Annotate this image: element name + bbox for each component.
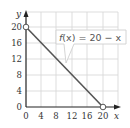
grid	[26, 12, 118, 107]
y-tick-8: 8	[17, 70, 22, 80]
y-tick-12: 12	[11, 54, 22, 64]
y-tick-16: 16	[11, 38, 22, 48]
callout-label: f(x) = 20 − x	[59, 32, 121, 43]
y-tick-4: 4	[17, 86, 22, 96]
x-tick-4: 4	[38, 111, 43, 121]
x-tick-8: 8	[53, 111, 58, 121]
y-tick-20: 20	[11, 22, 22, 32]
function-callout: f(x) = 20 − x	[56, 30, 126, 63]
x-tick-labels: 0 4 8 12 16 20	[23, 111, 108, 121]
x-axis-arrow-icon	[114, 105, 121, 110]
open-endpoint-start-icon	[23, 24, 29, 30]
x-axis-label: x	[114, 111, 119, 121]
y-tick-0: 0	[17, 102, 22, 112]
chart: f(x) = 20 − x 0 4 8 12 16 20 0 4 8 12 16…	[0, 0, 130, 128]
x-tick-16: 16	[82, 111, 93, 121]
x-tick-12: 12	[67, 111, 78, 121]
x-tick-20: 20	[98, 111, 109, 121]
y-axis-arrow-icon	[24, 10, 29, 17]
y-tick-labels: 0 4 8 12 16 20	[11, 22, 22, 112]
y-axis-label: y	[15, 9, 22, 19]
open-endpoint-end-icon	[100, 104, 106, 110]
x-tick-0: 0	[23, 111, 28, 121]
